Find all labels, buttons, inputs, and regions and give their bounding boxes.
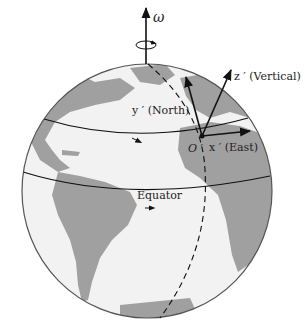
- z-axis-label: z ′ (Vertical): [234, 70, 301, 83]
- earth-frame-diagram: ω z ′ (Vertical) y ′ (North) x ′ (East) …: [0, 0, 305, 334]
- origin-label: O ′: [188, 142, 204, 155]
- rotation-axis: ω: [136, 8, 165, 64]
- x-axis-label: x ′ (East): [209, 141, 258, 154]
- omega-label: ω: [153, 9, 165, 25]
- y-axis-label: y ′ (North): [131, 104, 189, 117]
- origin-point: [200, 134, 205, 139]
- equator-label: Equator: [137, 189, 183, 202]
